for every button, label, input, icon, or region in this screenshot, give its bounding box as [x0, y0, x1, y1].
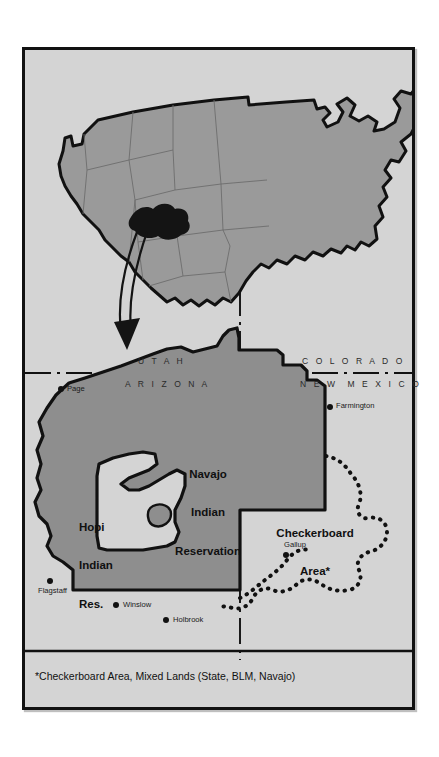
area-label-navajo-reservation: Navajo Indian Reservation [156, 442, 260, 584]
state-label-new-mexico: N E W M E X I C O [300, 380, 421, 390]
checkerboard-label-line-1: Checkerboard [260, 527, 370, 540]
city-label-page: Page [67, 385, 85, 394]
map-frame: U T A H A R I Z O N A C O L O R A D O N … [22, 47, 415, 710]
city-dot-flagstaff [47, 578, 53, 584]
city-label-winslow: Winslow [123, 601, 151, 610]
checkerboard-label-line-2: Area* [260, 565, 370, 578]
navajo-label-line-3: Reservation [156, 545, 260, 558]
city-dot-farmington [327, 404, 333, 410]
navajo-label-line-1: Navajo [156, 468, 260, 481]
area-label-checkerboard: Checkerboard Area* [260, 501, 370, 604]
footnote-text: *Checkerboard Area, Mixed Lands (State, … [35, 671, 295, 683]
locator-arrow-head [114, 318, 140, 350]
city-dot-holbrook [163, 617, 169, 623]
city-label-gallup: Gallup [284, 541, 306, 550]
navajo-label-line-2: Indian [156, 506, 260, 519]
area-label-hopi-reservation: Hopi Indian Res. [79, 495, 159, 637]
hopi-label-line-1: Hopi [79, 521, 159, 534]
us-locator-inset [59, 86, 412, 350]
city-label-flagstaff: Flagstaff [38, 587, 67, 596]
city-label-holbrook: Holbrook [173, 616, 203, 625]
hopi-label-line-2: Indian [79, 559, 159, 572]
state-label-utah: U T A H [138, 357, 185, 367]
us-outline [59, 86, 412, 306]
figure-page: U T A H A R I Z O N A C O L O R A D O N … [0, 0, 439, 757]
city-dot-page [58, 386, 64, 392]
state-label-colorado: C O L O R A D O [302, 357, 405, 367]
state-label-arizona: A R I Z O N A [125, 380, 210, 390]
city-label-farmington: Farmington [336, 402, 374, 411]
